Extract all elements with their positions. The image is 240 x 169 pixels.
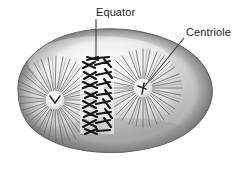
- cell-division-diagram: Equator Centriole: [0, 0, 240, 169]
- label-centriole: Centriole: [186, 26, 231, 38]
- label-equator: Equator: [96, 6, 135, 18]
- cell-body: [15, 29, 212, 162]
- centriole-left: [46, 91, 65, 110]
- aster-right: [104, 49, 182, 127]
- chromosomes-at-equator: [80, 56, 114, 134]
